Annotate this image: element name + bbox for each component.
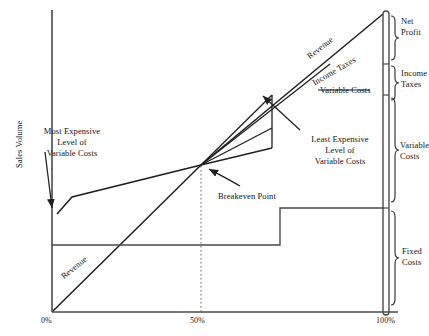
stack-cap-top: [383, 11, 389, 14]
bracket-net-profit: [391, 16, 399, 60]
bracket-label-income-taxes-line2: Taxes: [401, 79, 421, 89]
least-expensive-callout-line2: Level of: [292, 145, 388, 155]
bracket-label-net-profit-line1: Net: [401, 16, 414, 26]
least-expensive-arrow: [263, 96, 300, 130]
right-bracket-group: [391, 16, 399, 305]
breakeven-arrow: [209, 169, 240, 186]
bracket-variable-costs: [391, 98, 399, 202]
least-expensive-callout-line1: Least Expensive: [292, 134, 388, 144]
x-tick-100: 100%: [376, 316, 395, 326]
breakeven-callout: Breakeven Point: [218, 191, 276, 201]
least-expensive-fan-line: [201, 128, 272, 165]
y-axis-label: Sales Volume: [14, 121, 24, 168]
most-expensive-callout-line3: Variable Costs: [26, 148, 118, 158]
bracket-label-variable-costs-line2: Costs: [400, 151, 419, 161]
variable-costs-fan-line: [201, 95, 272, 165]
bracket-label-fixed-costs-line2: Costs: [402, 257, 421, 267]
x-tick-50: 50%: [190, 316, 205, 326]
most-expensive-variable-cost-line: [57, 165, 201, 214]
bracket-label-income-taxes-line1: Income: [401, 68, 427, 78]
most-expensive-callout-line1: Most Expensive: [26, 126, 118, 136]
x-tick-0: 0%: [41, 316, 52, 326]
most-expensive-arrow: [45, 152, 52, 208]
bracket-label-fixed-costs-line1: Fixed: [402, 246, 422, 256]
least-expensive-callout-line3: Variable Costs: [292, 156, 388, 166]
variable-costs-inline-label: Variable Costs: [320, 85, 371, 95]
bracket-label-variable-costs-line1: Variable: [400, 140, 429, 150]
most-expensive-callout-line2: Level of: [26, 137, 118, 147]
bracket-income-taxes: [391, 66, 399, 100]
bracket-fixed-costs: [391, 211, 399, 305]
bracket-label-net-profit-line2: Profit: [401, 27, 421, 37]
fixed-costs-step-line: [52, 208, 383, 245]
